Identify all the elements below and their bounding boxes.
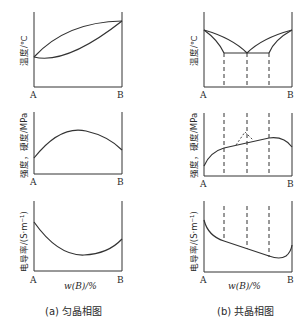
x-axis-label: w(B)/% <box>64 281 97 291</box>
axes <box>204 201 292 272</box>
panel-a-temperature-plot: 温度/℃ A B <box>19 12 124 100</box>
panel-b-temperature-plot: 温度/℃ A B <box>189 12 294 100</box>
x-start-label: A <box>29 275 37 285</box>
liquidus-left <box>204 30 247 53</box>
y-axis-label: 电导率/(S·m⁻¹) <box>19 211 29 272</box>
conductivity-curve <box>34 222 122 255</box>
x-end-label: B <box>117 177 124 187</box>
panel-a: 温度/℃ A B 强度，硬度/MPa A B 电导率/(S·m⁻¹) A B w… <box>19 12 124 317</box>
axes <box>34 201 122 271</box>
caption-a: (a) 匀晶相图 <box>45 305 102 317</box>
x-axis-label: w(B)/% <box>228 281 261 291</box>
panel-b-strength-plot: 强度，硬度/MPa A B <box>189 113 294 189</box>
x-end-label: B <box>117 275 124 285</box>
panel-a-conductivity-plot: 电导率/(S·m⁻¹) A B w(B)/% <box>19 201 124 291</box>
x-start-label: A <box>199 179 207 189</box>
x-end-label: B <box>287 275 294 285</box>
y-axis-label: 电导率/(S·m⁻¹) <box>189 211 199 272</box>
phase-diagram-figure: 温度/℃ A B 强度，硬度/MPa A B 电导率/(S·m⁻¹) A B w… <box>0 0 303 327</box>
strength-curve <box>204 138 292 166</box>
x-start-label: A <box>199 90 207 100</box>
x-end-label: B <box>117 90 124 100</box>
y-axis-label: 温度/℃ <box>189 35 199 66</box>
x-end-label: B <box>287 179 294 189</box>
x-start-label: A <box>29 90 37 100</box>
solidus-curve <box>34 21 122 58</box>
panel-b-conductivity-plot: 电导率/(S·m⁻¹) A B w(B)/% <box>189 201 294 291</box>
strength-curve <box>34 130 122 158</box>
y-axis-label: 强度，硬度/MPa <box>19 113 29 178</box>
panel-a-strength-plot: 强度，硬度/MPa A B <box>19 112 124 187</box>
panel-b: 温度/℃ A B 强度，硬度/MPa A B 电导率/(S·m⁻¹) A B <box>189 12 294 317</box>
x-start-label: A <box>29 177 37 187</box>
y-axis-label: 强度，硬度/MPa <box>189 113 199 178</box>
x-start-label: A <box>199 275 207 285</box>
y-axis-label: 温度/℃ <box>19 35 29 66</box>
x-end-label: B <box>287 90 294 100</box>
axes <box>204 12 292 87</box>
conductivity-curve <box>204 220 292 258</box>
liquidus-curve <box>34 21 122 57</box>
axes <box>204 113 292 176</box>
caption-b: (b) 共晶相图 <box>217 305 274 317</box>
